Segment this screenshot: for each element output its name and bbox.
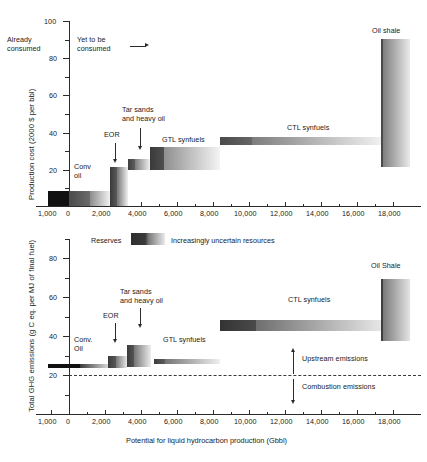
top-xtick-14000 bbox=[321, 202, 322, 207]
bottom-ytick-label-20: 20 bbox=[49, 371, 57, 380]
annotation-tar-sands: Tar sands and heavy oil bbox=[120, 288, 163, 305]
top-xtick-15000 bbox=[339, 204, 340, 208]
bar-seg-resources bbox=[116, 356, 127, 368]
top-ytick-100 bbox=[63, 21, 70, 22]
bottom-xtick-label-16000: 16,000 bbox=[342, 417, 365, 426]
bar-seg-reserves bbox=[108, 356, 116, 368]
top-xtick-label-6000: 6,000 bbox=[164, 209, 183, 218]
bottom-xtick-label-2000: 2,000 bbox=[92, 417, 111, 426]
bottom-xtick-17000 bbox=[375, 412, 376, 416]
bottom-xtick-label-8000: 8,000 bbox=[200, 417, 219, 426]
top-xtick-18000 bbox=[393, 202, 394, 207]
bar-seg-resources bbox=[117, 167, 128, 206]
bottom-x-axis-line bbox=[36, 414, 421, 415]
top-ytick-20 bbox=[63, 170, 70, 171]
top-xtick-label-8000: 8,000 bbox=[200, 209, 219, 218]
bottom-xtick-label-6000: 6,000 bbox=[164, 417, 183, 426]
top-ytick-60 bbox=[63, 95, 70, 96]
bar-top-ctl-synfuels bbox=[220, 137, 381, 145]
combustion-emissions-line bbox=[69, 375, 421, 376]
top-xtick-17000 bbox=[375, 204, 376, 208]
annotation-gtl-synfuels: GTL synfuels bbox=[162, 136, 205, 145]
bar-top-conv-oil bbox=[48, 191, 110, 206]
bottom-ytick-label-40: 40 bbox=[49, 332, 57, 341]
legend-label-reserves: Reserves bbox=[91, 236, 121, 245]
bottom-xtick-8000 bbox=[213, 410, 214, 415]
bar-seg-reserves bbox=[220, 137, 252, 145]
bar-bottom-gtl-synfuels bbox=[154, 359, 220, 364]
annotation-oil-shale: Oil shale bbox=[372, 27, 400, 36]
bottom-xtick-label-18000: 18,000 bbox=[378, 417, 401, 426]
bottom-y-axis-line bbox=[69, 239, 70, 415]
bar-seg-reserves bbox=[48, 364, 80, 368]
bottom-xtick-label-10000: 10,000 bbox=[234, 417, 257, 426]
top-ytick-90 bbox=[65, 40, 70, 41]
x-axis-title: Potential for liquid hydrocarbon product… bbox=[126, 436, 287, 445]
annotation-combustion-emissions: Combustion emissions bbox=[302, 383, 375, 392]
bar-seg-resources bbox=[80, 364, 108, 368]
bar-top-oil-shale bbox=[381, 39, 410, 167]
top-xtick-label-12000: 12,000 bbox=[270, 209, 293, 218]
bottom-xtick-3000 bbox=[123, 412, 124, 416]
top-ytick-label-100: 100 bbox=[44, 17, 56, 26]
bar-top-gtl-synfuels bbox=[150, 147, 220, 170]
bar-bottom-conv-oil bbox=[48, 364, 108, 368]
bottom-xtick-4000 bbox=[141, 410, 142, 415]
bar-seg-reserves bbox=[220, 320, 256, 331]
top-xtick-6000 bbox=[177, 202, 178, 207]
bottom-xtick-label-1000: 1,000 bbox=[38, 417, 57, 426]
bottom-xtick-9000 bbox=[231, 412, 232, 416]
annotation-conv-oil: Conv oil bbox=[74, 163, 91, 180]
bottom-ytick-70 bbox=[65, 278, 70, 279]
bottom-ytick-90 bbox=[65, 239, 70, 240]
bar-bottom-eor bbox=[108, 356, 127, 368]
bar-seg-reserves bbox=[150, 147, 164, 170]
bottom-xtick-6000 bbox=[177, 410, 178, 415]
bottom-ytick-80 bbox=[63, 258, 70, 259]
bar-seg-consumed bbox=[48, 191, 69, 206]
top-ytick-80 bbox=[63, 58, 70, 59]
top-xtick-13000 bbox=[303, 204, 304, 208]
bottom-xtick-0 bbox=[69, 410, 70, 415]
bar-seg-resources bbox=[90, 191, 110, 206]
annotation-oil-shale: Oil Shale bbox=[371, 262, 401, 271]
bottom-ytick-label-60: 60 bbox=[49, 293, 57, 302]
bar-seg-reserves bbox=[154, 359, 165, 364]
top-ytick-label-60: 60 bbox=[49, 91, 57, 100]
legend-label-resources: Increasingly uncertain resources bbox=[171, 236, 274, 245]
bottom-xtick-11000 bbox=[267, 412, 268, 416]
legend-gradient-swatch bbox=[131, 233, 165, 245]
bar-seg-reserves bbox=[128, 159, 135, 170]
bottom-xtick-15000 bbox=[339, 412, 340, 416]
top-xtick-label-10000: 10,000 bbox=[234, 209, 257, 218]
bar-bottom-oil-shale bbox=[381, 279, 410, 341]
top-ytick-10 bbox=[65, 188, 70, 189]
annotation-gtl-synfuels: GTL synfuels bbox=[163, 336, 206, 345]
top-xtick-label-14000: 14,000 bbox=[306, 209, 329, 218]
top-xtick-11000 bbox=[267, 204, 268, 208]
annotation-eor: EOR bbox=[104, 131, 120, 140]
bottom-xtick-1000 bbox=[87, 412, 88, 416]
bottom-xtick-13000 bbox=[303, 412, 304, 416]
top-xtick-5000 bbox=[159, 204, 160, 208]
top-ytick-40 bbox=[63, 133, 70, 134]
top-xtick-label-1000: 1,000 bbox=[38, 209, 57, 218]
top-xtick-label-16000: 16,000 bbox=[342, 209, 365, 218]
annotation-upstream-emissions: Upstream emissions bbox=[302, 355, 368, 364]
bottom-ytick-40 bbox=[63, 336, 70, 337]
figure-root: Production cost (2000 $ per bbl) 100 80 … bbox=[0, 0, 427, 462]
top-y-axis-label: Production cost (2000 $ per bbl) bbox=[27, 89, 36, 200]
top-ytick-70 bbox=[65, 77, 70, 78]
top-xtick-label-0: 0 bbox=[66, 209, 70, 218]
bottom-xtick-n1000 bbox=[51, 410, 52, 415]
bottom-xtick-14000 bbox=[321, 410, 322, 415]
bottom-ytick-label-80: 80 bbox=[49, 254, 57, 263]
bar-seg-resources bbox=[256, 320, 381, 331]
top-xtick-16000 bbox=[357, 202, 358, 207]
bottom-ytick-30 bbox=[65, 356, 70, 357]
top-xtick-label-18000: 18,000 bbox=[378, 209, 401, 218]
top-ytick-label-20: 20 bbox=[49, 166, 57, 175]
top-xtick-label-4000: 4,000 bbox=[128, 209, 147, 218]
bottom-xtick-label-4000: 4,000 bbox=[128, 417, 147, 426]
bottom-ytick-60 bbox=[63, 297, 70, 298]
